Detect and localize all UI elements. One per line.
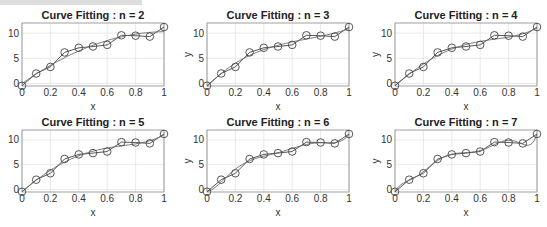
y-axis-label: y [182, 159, 193, 164]
y-tick-label: 5 [386, 53, 392, 64]
x-tick-label: 0.6 [473, 87, 487, 98]
y-axis-label: y [182, 52, 193, 57]
x-axis-label: x [276, 207, 281, 218]
y-tick-label: 5 [386, 159, 392, 170]
plot-area [207, 23, 349, 86]
subplot-n3: 00.20.40.60.810510Curve Fitting : n = 3x… [182, 9, 353, 112]
x-tick-label: 0.2 [228, 87, 242, 98]
subplot-n4: 00.20.40.60.810510Curve Fitting : n = 4x… [370, 9, 541, 112]
x-tick-label: 0.2 [416, 193, 430, 204]
subplot-title: Curve Fitting : n = 5 [42, 116, 145, 128]
subplot-title: Curve Fitting : n = 3 [227, 9, 330, 21]
y-tick-label: 10 [193, 28, 205, 39]
y-tick-label: 10 [8, 134, 20, 145]
subplot-title: Curve Fitting : n = 7 [415, 116, 518, 128]
plot-area [22, 23, 164, 86]
x-tick-label: 0.4 [257, 193, 271, 204]
subplot-title: Curve Fitting : n = 4 [415, 9, 519, 21]
figure: 00.20.40.60.810510Curve Fitting : n = 2x… [0, 0, 547, 227]
x-tick-label: 1 [534, 193, 540, 204]
x-tick-label: 0.6 [285, 87, 299, 98]
x-tick-label: 0.6 [473, 193, 487, 204]
x-tick-label: 1 [534, 87, 540, 98]
x-tick-label: 0.8 [502, 193, 516, 204]
y-tick-label: 10 [381, 28, 393, 39]
x-tick-label: 0.8 [129, 87, 143, 98]
x-axis-label: x [276, 101, 281, 112]
x-tick-label: 0.2 [416, 87, 430, 98]
x-tick-label: 0.2 [43, 87, 57, 98]
x-axis-label: x [464, 101, 469, 112]
subplot-n7: 00.20.40.60.810510Curve Fitting : n = 7x… [370, 116, 541, 218]
x-tick-label: 1 [346, 87, 352, 98]
plot-area [395, 130, 537, 192]
x-tick-label: 1 [346, 193, 352, 204]
x-tick-label: 0.4 [72, 193, 86, 204]
y-tick-label: 5 [13, 159, 19, 170]
subplot-n6: 00.20.40.60.810510Curve Fitting : n = 6x… [182, 116, 353, 218]
x-tick-label: 0.4 [257, 87, 271, 98]
x-tick-label: 0.2 [228, 193, 242, 204]
y-tick-label: 5 [13, 53, 19, 64]
y-tick-label: 10 [381, 134, 393, 145]
subplot-n5: 00.20.40.60.810510Curve Fitting : n = 5x [8, 116, 168, 218]
y-tick-label: 10 [8, 28, 20, 39]
x-tick-label: 0.4 [72, 87, 86, 98]
x-tick-label: 0.4 [445, 193, 459, 204]
y-tick-label: 10 [193, 134, 205, 145]
x-tick-label: 1 [161, 193, 167, 204]
y-tick-label: 5 [198, 53, 204, 64]
y-axis-label: y [370, 52, 381, 57]
x-tick-label: 1 [161, 87, 167, 98]
plot-area [22, 130, 164, 192]
x-tick-label: 0.6 [100, 87, 114, 98]
x-tick-label: 0.8 [314, 87, 328, 98]
y-axis-label: y [370, 159, 381, 164]
y-tick-label: 5 [198, 159, 204, 170]
x-axis-label: x [91, 101, 96, 112]
x-axis-label: x [91, 207, 96, 218]
x-tick-label: 0.2 [43, 193, 57, 204]
x-tick-label: 0.4 [445, 87, 459, 98]
x-tick-label: 0.6 [100, 193, 114, 204]
subplot-n2: 00.20.40.60.810510Curve Fitting : n = 2x [8, 9, 168, 112]
x-tick-label: 0.6 [285, 193, 299, 204]
x-tick-label: 0.8 [314, 193, 328, 204]
subplot-title: Curve Fitting : n = 6 [227, 116, 330, 128]
subplot-title: Curve Fitting : n = 2 [42, 9, 145, 21]
plot-area [395, 23, 537, 86]
plot-area [207, 130, 349, 192]
x-tick-label: 0.8 [129, 193, 143, 204]
x-tick-label: 0.8 [502, 87, 516, 98]
x-axis-label: x [464, 207, 469, 218]
